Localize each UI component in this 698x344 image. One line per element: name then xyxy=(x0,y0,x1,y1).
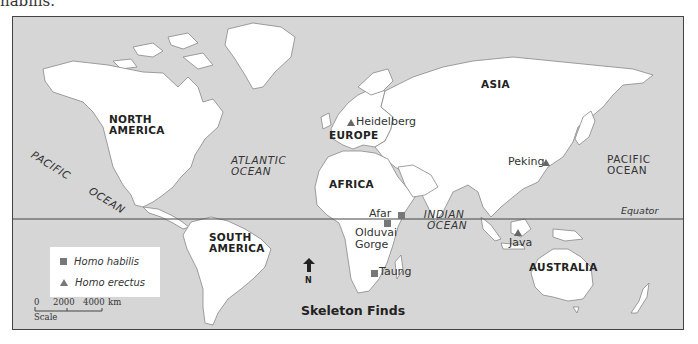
australia xyxy=(531,249,593,301)
tasmania xyxy=(573,307,579,313)
legend-item-habilis: Homo habilis xyxy=(60,256,139,267)
central-america xyxy=(143,207,189,229)
caption-fragment: habilis. xyxy=(0,0,55,10)
label-asia: ASIA xyxy=(481,79,510,90)
site-heidelberg: Heidelberg xyxy=(356,116,416,128)
new-guinea xyxy=(553,229,583,241)
site-peking: Peking xyxy=(508,156,544,168)
site-afar: Afar xyxy=(369,208,391,220)
map-title: Skeleton Finds xyxy=(301,303,405,318)
label-europe: EUROPE xyxy=(329,130,378,141)
triangle-marker-icon xyxy=(60,279,68,286)
site-taung: Taung xyxy=(379,266,412,278)
scale-label: Scale xyxy=(34,312,144,322)
north-label: N xyxy=(305,276,315,285)
legend-label: Homo habilis xyxy=(74,256,139,267)
square-marker-icon xyxy=(371,270,378,277)
label-line: Gorge xyxy=(355,239,397,251)
label-south-america: SOUTH AMERICA xyxy=(209,232,265,254)
scale-tick: 2000 xyxy=(53,297,75,307)
legend-item-erectus: Homo erectus xyxy=(60,277,145,288)
label-australia: AUSTRALIA xyxy=(529,262,598,273)
label-pacific-ocean-east: PACIFIC OCEAN xyxy=(607,154,651,176)
label-line: OCEAN xyxy=(427,220,467,231)
label-line: Olduvai xyxy=(355,227,397,239)
legend: Homo habilis Homo erectus xyxy=(50,247,160,297)
scale-unit: km xyxy=(108,297,121,307)
site-olduvai-gorge: Olduvai Gorge xyxy=(355,227,397,250)
label-africa: AFRICA xyxy=(329,179,374,190)
sumatra xyxy=(481,217,501,241)
label-indian-ocean: INDIAN OCEAN xyxy=(421,209,467,231)
label-line: AMERICA xyxy=(109,125,165,136)
label-line: OCEAN xyxy=(231,166,286,177)
scale-tick: 0 xyxy=(34,297,39,307)
triangle-marker-icon xyxy=(514,229,522,236)
asia xyxy=(375,57,653,222)
scale-tick: 4000 xyxy=(83,297,105,307)
legend-label: Homo erectus xyxy=(75,277,145,288)
world-map: NORTH AMERICA SOUTH AMERICA EUROPE AFRIC… xyxy=(12,16,684,330)
greenland xyxy=(225,23,295,89)
square-marker-icon xyxy=(398,212,405,219)
north-arrow: N xyxy=(303,257,315,285)
label-atlantic-ocean: ATLANTIC OCEAN xyxy=(231,155,286,177)
triangle-marker-icon xyxy=(542,159,550,166)
square-marker-icon xyxy=(60,258,67,265)
triangle-marker-icon xyxy=(347,119,355,126)
north-arrow-icon xyxy=(303,258,315,272)
label-line: AMERICA xyxy=(209,243,265,254)
equator-label: Equator xyxy=(621,206,658,216)
new-zealand xyxy=(631,283,649,313)
arctic-islands xyxy=(113,33,213,69)
scale-bar: 0 2000 4000 km Scale xyxy=(34,297,144,322)
label-line: OCEAN xyxy=(607,165,651,176)
site-java: Java xyxy=(509,237,532,249)
british-isles xyxy=(321,113,331,129)
label-north-america: NORTH AMERICA xyxy=(109,114,165,136)
